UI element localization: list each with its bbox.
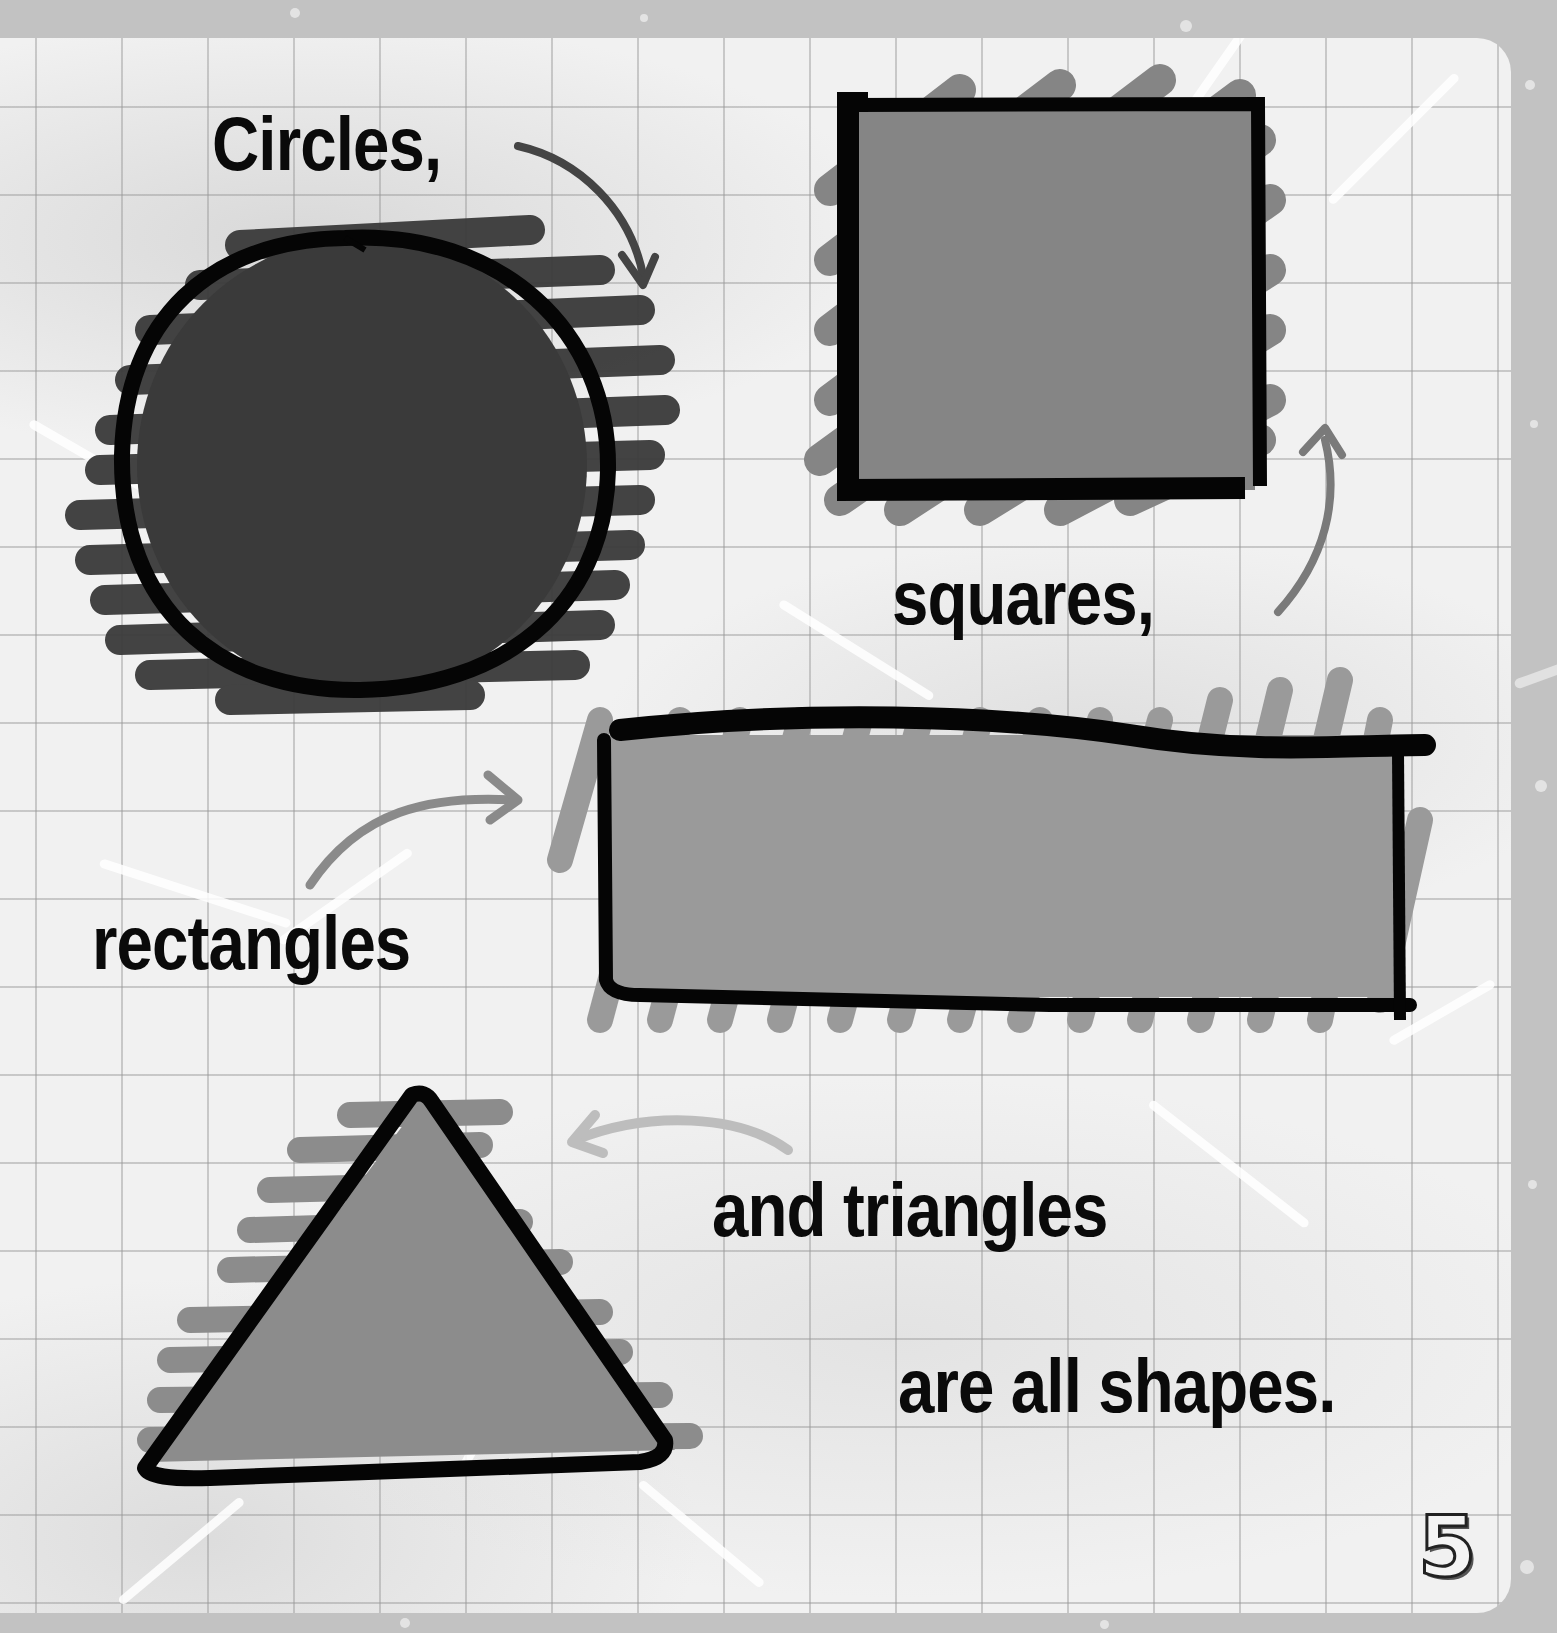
- arrow-rectangles: [310, 775, 518, 885]
- squares-caption: squares,: [892, 560, 1154, 636]
- rectangle-shape: [560, 680, 1425, 1020]
- arrow-triangles: [572, 1115, 788, 1153]
- triangles-caption: and triangles: [712, 1172, 1108, 1248]
- arrow-squares: [1278, 428, 1342, 612]
- circle-shape: [80, 230, 665, 700]
- circles-caption: Circles,: [212, 106, 441, 182]
- rectangles-caption: rectangles: [92, 905, 410, 981]
- conclusion-caption: are all shapes.: [898, 1348, 1336, 1424]
- page-number: 5: [1418, 1505, 1476, 1589]
- triangle-shape: [145, 1094, 690, 1479]
- square-shape: [820, 80, 1270, 510]
